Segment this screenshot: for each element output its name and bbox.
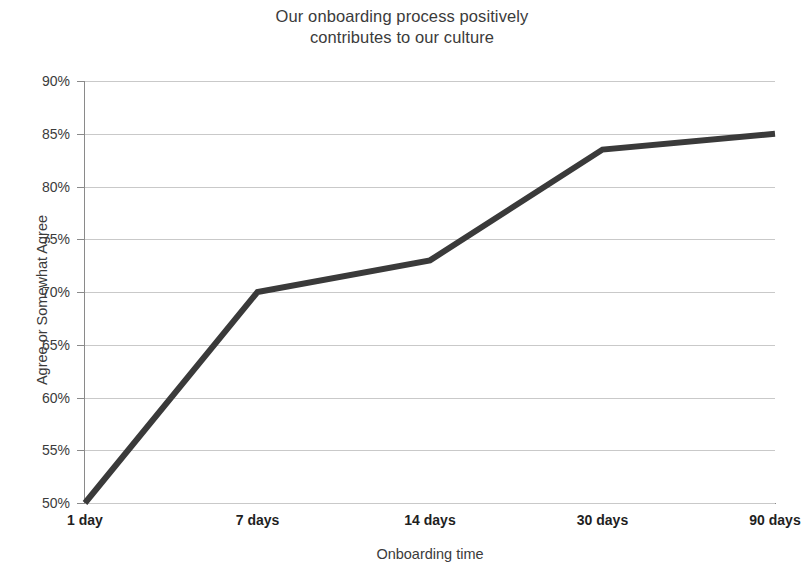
y-axis-tick-label: 65% bbox=[18, 337, 70, 353]
y-axis-tick-label: 70% bbox=[18, 284, 70, 300]
gridline bbox=[85, 503, 775, 504]
series-polyline bbox=[85, 134, 775, 503]
chart-title: Our onboarding process positively contri… bbox=[152, 6, 652, 48]
y-axis-tick-label: 55% bbox=[18, 442, 70, 458]
x-axis-title: Onboarding time bbox=[85, 546, 775, 562]
x-axis-tick-label: 90 days bbox=[705, 512, 804, 528]
y-axis-tick-label: 85% bbox=[18, 126, 70, 142]
x-axis-tick-label: 7 days bbox=[188, 512, 328, 528]
chart-title-line-2: contributes to our culture bbox=[152, 27, 652, 48]
y-axis-tick-label: 60% bbox=[18, 390, 70, 406]
plot-area bbox=[85, 81, 775, 503]
line-chart: Our onboarding process positively contri… bbox=[0, 0, 804, 577]
x-axis-tick-label: 30 days bbox=[533, 512, 673, 528]
y-axis-tick-label: 90% bbox=[18, 73, 70, 89]
y-axis-tick-label: 80% bbox=[18, 179, 70, 195]
y-axis-tick-label: 50% bbox=[18, 495, 70, 511]
x-axis-tick-label: 14 days bbox=[360, 512, 500, 528]
chart-title-line-1: Our onboarding process positively bbox=[152, 6, 652, 27]
data-series-line bbox=[85, 81, 775, 503]
x-axis-tick-label: 1 day bbox=[15, 512, 155, 528]
y-axis-tick-label: 75% bbox=[18, 231, 70, 247]
